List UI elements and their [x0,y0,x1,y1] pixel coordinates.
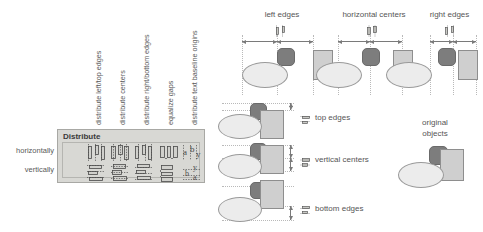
column-label-text-baseline-origins: distribute text baseline origins [190,30,199,125]
distribute-vertical-centers-button[interactable] [110,163,131,182]
distribute-left-edges-mini-icon [274,23,287,41]
diagram-label-bottom-edges: bottom edges [315,204,363,213]
distribute-bottom-edges-mini-icon [300,202,311,220]
ellipse-shape [398,162,444,188]
svg-text:a: a [193,173,197,182]
ellipse-shape [218,197,262,222]
blob-shape [362,48,380,66]
distribute-panel: Distribute [57,129,205,183]
diagram-vertical-centers: vertical centers [222,142,397,186]
blob-shape [277,48,295,66]
ellipse-shape [316,62,362,88]
diagram-right-edges: right edges [408,10,483,95]
row-label-vertically: vertically [0,165,54,174]
spacing-measure [370,41,402,42]
original-objects-label-line1: original [400,118,470,127]
distribute-vertical-row: y b a [86,163,203,182]
ellipse-shape [386,62,432,88]
distribute-vertical-centers-mini-icon [300,154,311,172]
spacing-measure-vertical [290,158,291,171]
spacing-measure-vertical [290,103,291,110]
svg-text:y: y [193,163,197,172]
diagram-bottom-edges: bottom edges [222,186,397,230]
column-label-equalize-gaps: equalize gaps [166,81,175,125]
distribute-horizontal-centers-button[interactable] [110,143,131,162]
distribute-top-edges-mini-icon [300,112,311,130]
diagram-label-vertical-centers: vertical centers [315,155,369,164]
ellipse-shape [218,114,262,139]
rect-shape [458,50,478,80]
distribute-vertical-right-bottom-edges-button[interactable] [134,163,155,182]
original-objects-label-line2: objects [400,129,470,138]
distribute-panel-title: Distribute [63,132,100,141]
distribute-vertical-left-top-edges-button[interactable] [86,163,107,182]
diagram-header-left-edges: left edges [236,10,328,19]
spacing-measure [338,41,370,42]
diagram-header-right-edges: right edges [416,10,483,19]
diagram-original-objects: original objects [400,118,483,198]
rect-shape [260,110,284,139]
diagram-label-top-edges: top edges [315,113,350,122]
spacing-measure-vertical [290,145,291,158]
rect-shape [260,180,284,209]
distribute-vertical-equalize-gaps-button[interactable] [158,163,179,182]
spacing-measure [277,41,313,42]
spacing-measure-vertical [290,206,291,220]
distribute-horizontal-centers-mini-icon [366,23,379,41]
row-label-horizontally: horizontally [0,146,54,155]
blob-shape [438,48,456,66]
guide-line [430,35,431,95]
spacing-measure [430,41,453,42]
spacing-measure [453,41,476,42]
distribute-horizontal-row: a b y [86,143,203,162]
rect-shape [260,145,284,174]
guide-line [242,35,243,95]
distribute-vertical-text-baseline-origins-button[interactable]: y b a [182,163,203,182]
distribute-horizontal-equalize-gaps-button[interactable] [158,143,179,162]
distribute-right-edges-mini-icon [444,23,457,41]
distribute-horizontal-right-bottom-edges-button[interactable] [134,143,155,162]
diagram-header-horizontal-centers: horizontal centers [328,10,420,19]
distribute-horizontal-left-top-edges-button[interactable] [86,143,107,162]
distribute-horizontal-text-baseline-origins-button[interactable]: a b y [182,143,203,162]
svg-text:b: b [185,169,189,178]
ellipse-shape [218,154,262,179]
diagram-top-edges: top edges [222,100,397,142]
column-label-right-bottom-edges: distribute right/bottom edges [142,34,151,125]
diagram-left-edges: left edges [236,10,328,95]
distribute-button-grid: a b y [86,143,203,182]
column-label-left-top-edges: distribute left/top edges [94,51,103,125]
spacing-measure [242,41,277,42]
ellipse-shape [242,62,288,88]
column-label-centers: distribute centers [118,70,127,125]
